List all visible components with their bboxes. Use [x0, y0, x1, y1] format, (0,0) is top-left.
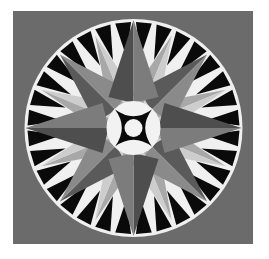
mariners-compass-quilt: [0, 0, 269, 259]
hub-center-dot: [125, 119, 143, 137]
